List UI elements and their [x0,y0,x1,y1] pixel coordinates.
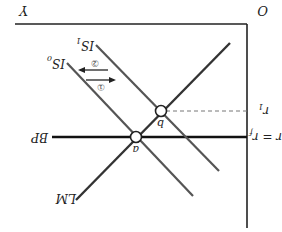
is0-label: IS0 [47,54,66,70]
bp-label: BP [30,130,49,144]
rf-label: r = rf [248,128,282,144]
origin-label: O [257,3,268,18]
shift-2-label: ② [91,58,99,68]
shift-1-label: ① [97,82,105,92]
x-axis-label: Y [18,3,28,18]
arrow-2-head [78,67,85,73]
point-a [131,132,142,143]
r1-label: r1 [258,102,269,118]
lm-curve [76,43,230,200]
is0-curve [67,63,193,196]
is1-label: IS1 [76,36,95,52]
point-a-label: a [132,143,139,156]
point-b [156,106,167,117]
point-b-label: b [157,117,164,130]
arrow-1-head [109,77,116,83]
is-lm-bp-diagram: O Y r1 r = rf BP LM IS0 IS1 a b ② ① [0,0,282,232]
lm-label: LM [55,191,77,205]
